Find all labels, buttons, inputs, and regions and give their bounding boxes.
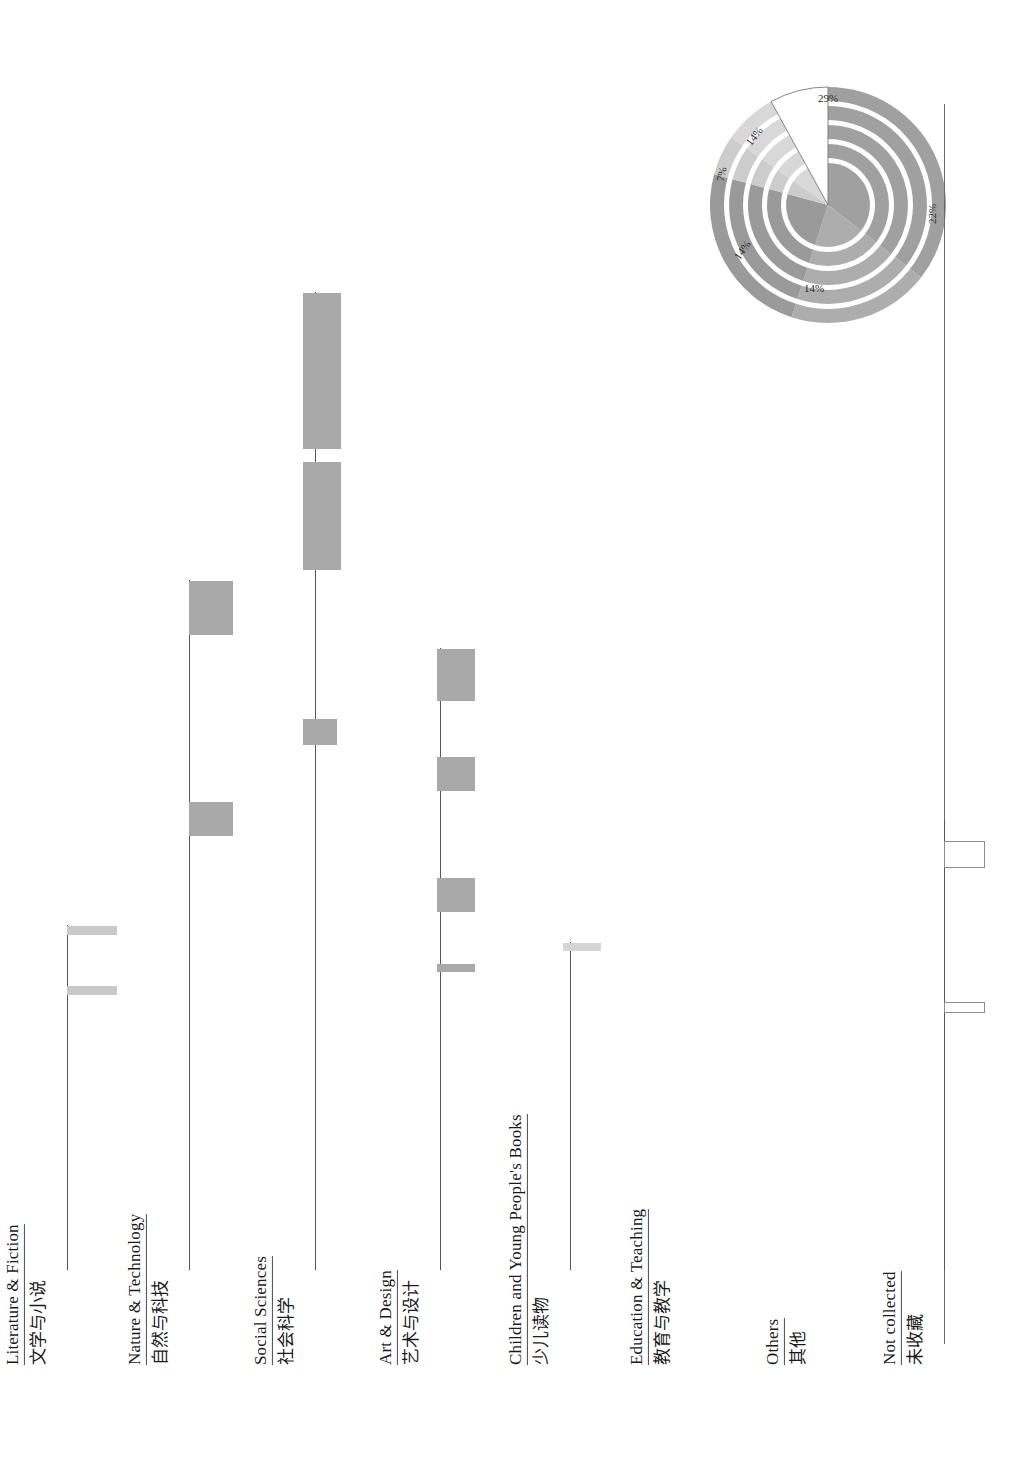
category-baseline: [67, 925, 68, 1270]
category-label-literature-fiction: Literature & Fiction 文学与小说: [3, 1224, 48, 1365]
bar: [189, 581, 233, 635]
category-label-en: Social Sciences: [251, 1256, 273, 1365]
bar: [437, 649, 475, 701]
bar: [189, 802, 233, 836]
bar: [437, 878, 475, 912]
category-label-childrens-books: Children and Young People's Books 少儿读物: [506, 1114, 551, 1365]
category-baseline: [440, 648, 441, 1270]
category-label-zh: 教育与教学: [649, 1209, 672, 1365]
category-label-en: Others: [763, 1319, 785, 1366]
category-baseline: [570, 942, 571, 1270]
category-label-art-design: Art & Design 艺术与设计: [376, 1270, 421, 1365]
category-label-zh: 少儿读物: [528, 1114, 551, 1365]
category-label-not-collected: Not collected 未收藏: [880, 1271, 925, 1365]
category-label-en: Children and Young People's Books: [506, 1114, 528, 1365]
figure-canvas: 29% 22% 14% 14% 7% 14% Literature & Fict…: [0, 0, 1009, 1467]
category-label-zh: 文学与小说: [25, 1224, 48, 1365]
category-label-zh: 社会科学: [273, 1256, 296, 1365]
bar: [944, 841, 985, 868]
radial-pie-chart: 29% 22% 14% 14% 7% 14%: [700, 80, 970, 340]
category-label-zh: 艺术与设计: [398, 1270, 421, 1365]
category-label-others: Others 其他: [763, 1319, 808, 1366]
bar: [303, 462, 341, 570]
category-label-en: Education & Teaching: [627, 1209, 649, 1365]
donut-slice-label-22: 22%: [926, 204, 938, 224]
category-baseline: [189, 580, 190, 1270]
category-label-en: Literature & Fiction: [3, 1224, 25, 1365]
bar: [303, 293, 341, 449]
bar: [563, 943, 601, 951]
category-label-en: Art & Design: [376, 1270, 398, 1365]
bar: [67, 926, 117, 935]
category-label-zh: 其他: [785, 1319, 808, 1366]
bar: [303, 719, 337, 745]
category-label-zh: 自然与科技: [147, 1214, 170, 1365]
category-label-en: Nature & Technology: [125, 1214, 147, 1365]
category-label-nature-technology: Nature & Technology 自然与科技: [125, 1214, 170, 1365]
bar: [944, 1002, 985, 1013]
category-label-social-sciences: Social Sciences 社会科学: [251, 1256, 296, 1365]
donut-slice-label-14-bottom: 14%: [804, 282, 824, 294]
category-label-en: Not collected: [880, 1271, 902, 1365]
category-baseline: [944, 820, 945, 1270]
category-label-education-teaching: Education & Teaching 教育与教学: [627, 1209, 672, 1365]
bar: [437, 757, 475, 791]
donut-slice-label-29: 29%: [818, 92, 838, 104]
bar: [67, 986, 117, 995]
bar: [437, 964, 475, 972]
category-label-zh: 未收藏: [902, 1271, 925, 1365]
